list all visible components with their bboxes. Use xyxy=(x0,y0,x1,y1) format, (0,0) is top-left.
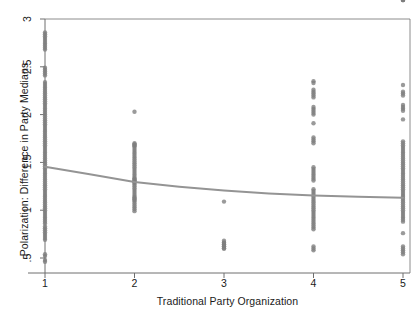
chart-figure: Polarization: Difference in Party Median… xyxy=(0,0,420,319)
data-points-layer xyxy=(43,0,405,264)
plot-frame-border xyxy=(45,19,410,273)
axis-lines xyxy=(28,19,410,273)
scatter-plot-canvas xyxy=(0,0,420,319)
trend-line-layer xyxy=(45,167,403,198)
tick-marks xyxy=(40,19,403,278)
